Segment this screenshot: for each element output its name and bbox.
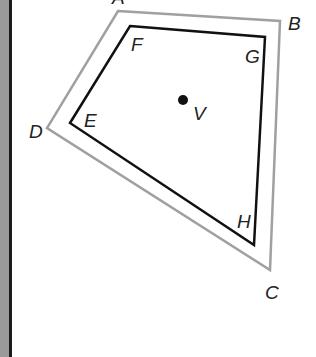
label-b: B: [288, 13, 301, 34]
center-point-v: [178, 95, 188, 105]
label-f: F: [131, 34, 144, 55]
diagram-svg: A B C D E F G H V: [0, 0, 316, 357]
label-a: A: [111, 0, 125, 8]
label-e: E: [84, 110, 97, 131]
label-c: C: [265, 282, 279, 303]
dilation-figure: A B C D E F G H V: [0, 0, 316, 357]
label-d: D: [29, 121, 43, 142]
label-h: H: [237, 211, 251, 232]
label-g: G: [245, 46, 260, 67]
label-v: V: [193, 103, 208, 124]
inner-quadrilateral-efgh: [70, 26, 265, 245]
